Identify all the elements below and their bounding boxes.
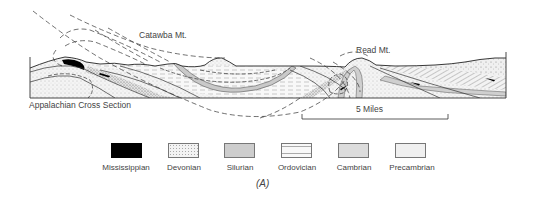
legend-swatch-silurian: [224, 143, 255, 158]
legend-label-mississippian: Mississippian: [102, 163, 150, 172]
legend-swatch-precambrian: [395, 143, 426, 158]
legend-label-cambrian: Cambrian: [337, 163, 372, 172]
legend-swatch-cambrian: [338, 143, 369, 158]
read-mt-label: Read Mt.: [356, 45, 391, 55]
legend-swatch-mississippian: [111, 143, 142, 158]
legend-label-precambrian: Precambrian: [389, 163, 434, 172]
cross-section-body: [28, 50, 508, 100]
section-title: Appalachian Cross Section: [29, 100, 131, 110]
legend-swatch-devonian: [168, 143, 199, 158]
legend-swatch-ordovician: [281, 143, 312, 158]
legend-label-silurian: Silurian: [227, 163, 254, 172]
scale-bar: [302, 114, 448, 119]
legend-label-devonian: Devonian: [167, 163, 201, 172]
scale-bar-label: 5 Miles: [356, 104, 383, 114]
figure-caption: (A): [256, 178, 269, 189]
legend-label-ordovician: Ordovician: [278, 163, 316, 172]
catawba-mt-label: Catawba Mt.: [139, 30, 187, 40]
